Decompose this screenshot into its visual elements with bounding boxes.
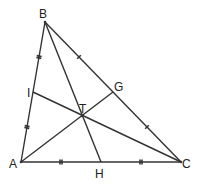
vertex-dot: [81, 115, 84, 118]
label-G: G: [114, 80, 123, 94]
label-B: B: [39, 7, 47, 21]
segment-BH: [45, 22, 101, 162]
segment-CI: [33, 92, 181, 162]
tick-mark: [36, 58, 41, 59]
vertex-dot: [180, 161, 183, 164]
label-T: T: [79, 102, 87, 116]
label-H: H: [95, 167, 104, 181]
tick-mark: [37, 56, 42, 57]
vertex-dot: [44, 21, 47, 24]
segment-AG: [21, 92, 113, 162]
label-I: I: [27, 86, 30, 100]
segments: [21, 22, 181, 162]
vertex-dot: [20, 161, 23, 164]
label-A: A: [9, 157, 17, 171]
label-C: C: [182, 157, 191, 171]
triangle-diagram: B A C H G I T: [0, 0, 197, 185]
tick-mark: [24, 128, 29, 129]
tick-mark: [25, 126, 30, 127]
